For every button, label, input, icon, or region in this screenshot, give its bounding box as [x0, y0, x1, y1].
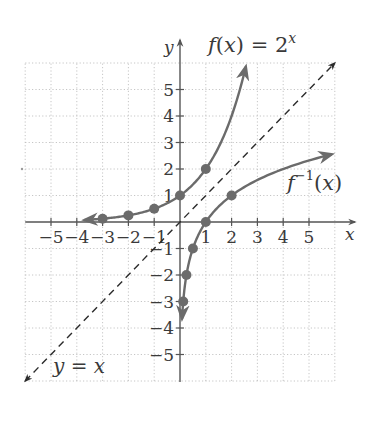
axes: [25, 40, 355, 382]
f-data-point: [201, 164, 211, 174]
x-axis-label: x: [345, 224, 355, 244]
y-tick-label: 3: [163, 133, 174, 153]
x-tick-label: −2: [116, 227, 141, 247]
f-inverse-data-point: [181, 270, 191, 280]
y-tick-label: −4: [149, 318, 174, 338]
x-tick-label: −3: [90, 227, 115, 247]
scan-artifact-dot: [21, 168, 23, 170]
f-data-point: [123, 210, 133, 220]
x-tick-label: 5: [304, 227, 315, 247]
f-inverse-data-point: [201, 217, 211, 227]
y-tick-label: −5: [149, 345, 174, 365]
y-tick-label: 2: [163, 159, 174, 179]
y-tick-label: −3: [149, 292, 174, 312]
x-tick-label: 4: [278, 227, 289, 247]
x-tick-label: −4: [64, 227, 89, 247]
y-tick-label: 4: [163, 106, 174, 126]
x-tick-label: −5: [38, 227, 63, 247]
f-inverse-label: f−1(x): [285, 168, 342, 195]
f-inverse-data-point: [178, 297, 188, 307]
f-data-point: [98, 214, 108, 224]
y-axis-label: y: [163, 37, 174, 57]
x-tick-label: 3: [252, 227, 263, 247]
f-inverse-data-point: [188, 244, 198, 254]
y-tick-label: 5: [163, 80, 174, 100]
x-tick-label: 2: [226, 227, 237, 247]
inverse-function-chart: −5−4−3−2−112345−5−4−3−2−112345 x y f(x) …: [0, 0, 376, 424]
y-tick-label: −2: [149, 265, 174, 285]
f-inverse-data-point: [227, 191, 237, 201]
f-label: f(x) = 2x: [206, 30, 296, 57]
f-data-point: [175, 191, 185, 201]
identity-line-label: y = x: [52, 354, 105, 378]
f-data-point: [149, 204, 159, 214]
